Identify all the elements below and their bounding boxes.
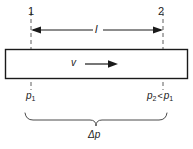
length-arrowhead-right-icon [153,26,163,33]
pressure-drop-brace-icon [25,113,167,126]
station-2-label: 2 [158,6,164,17]
velocity-label: v [71,58,76,68]
outlet-pressure-symbol: p [147,90,153,101]
less-than-operator: < [156,91,163,101]
compared-pressure-subscript: 1 [169,95,173,102]
station-1-label: 1 [28,6,34,17]
inlet-pressure-symbol: p [26,90,32,101]
pipe-pressure-drop-figure: 1 2 l v p1 p2<p1 Δp [0,0,193,149]
pressure-drop-label: Δp [88,130,100,140]
outlet-pressure-subscript: 2 [153,95,157,102]
inlet-pressure-subscript: 1 [32,95,36,102]
inlet-pressure-label: p1 [26,91,35,101]
outlet-pressure-relation-label: p2<p1 [147,91,173,101]
length-label: l [95,24,97,35]
length-arrowhead-left-icon [31,26,41,33]
